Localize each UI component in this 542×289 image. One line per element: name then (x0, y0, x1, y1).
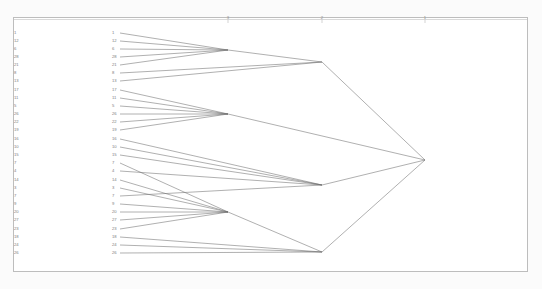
leaf-label: 17 (14, 88, 19, 92)
leaf-label: 9 (14, 202, 16, 206)
leaf-label: 9 (112, 202, 114, 206)
leaf-label: 27 (112, 218, 117, 222)
leaf-label: 7 (14, 161, 16, 165)
figure-canvas: 3 2 1 1 12 6 28 21 8 13 17 11 5 26 22 19… (0, 0, 542, 289)
leaf-label: 1 (112, 31, 114, 35)
leaf-label: 26 (14, 251, 19, 255)
leaf-label: 22 (112, 120, 117, 124)
leaf-label: 28 (14, 55, 19, 59)
leaf-label: 14 (112, 178, 117, 182)
leaf-label: 3 (112, 186, 114, 190)
leaf-label: 16 (14, 137, 19, 141)
leaf-label: 22 (14, 120, 19, 124)
leaf-label: 19 (112, 128, 117, 132)
leaf-label: 6 (112, 47, 114, 51)
leaf-label: 16 (112, 137, 117, 141)
leaf-label: 13 (14, 79, 19, 83)
leaf-label: 20 (112, 210, 117, 214)
leaf-label: 13 (112, 79, 117, 83)
leaf-label: 8 (14, 71, 16, 75)
leaf-label: 27 (14, 218, 19, 222)
leaf-label: 8 (112, 71, 114, 75)
leaf-label: 23 (112, 227, 117, 231)
leaf-label: 26 (14, 112, 19, 116)
leaf-label: 26 (112, 112, 117, 116)
leaf-label: 23 (14, 227, 19, 231)
plot-panel (13, 17, 528, 272)
axis-tick-3: 3 (227, 15, 229, 20)
leaf-label: 7 (14, 194, 16, 198)
axis-tick-1: 1 (424, 15, 426, 20)
leaf-label: 17 (112, 88, 117, 92)
leaf-label: 20 (14, 210, 19, 214)
leaf-label: 24 (14, 243, 19, 247)
leaf-label: 15 (112, 153, 117, 157)
leaf-label: 18 (112, 235, 117, 239)
leaf-label: 24 (112, 243, 117, 247)
leaf-label: 12 (14, 39, 19, 43)
leaf-label: 11 (112, 96, 116, 100)
leaf-label: 18 (14, 235, 19, 239)
leaf-label: 12 (112, 39, 117, 43)
leaf-label: 21 (112, 63, 117, 67)
leaf-label: 1 (14, 31, 16, 35)
leaf-label: 11 (14, 96, 18, 100)
leaf-label: 28 (112, 55, 117, 59)
leaf-label: 10 (14, 145, 19, 149)
leaf-label: 5 (14, 104, 16, 108)
leaf-label: 5 (112, 104, 114, 108)
leaf-label: 10 (112, 145, 117, 149)
leaf-label: 4 (112, 169, 114, 173)
leaf-label: 14 (14, 178, 19, 182)
leaf-label: 3 (14, 186, 16, 190)
leaf-label: 26 (112, 251, 117, 255)
leaf-label: 7 (112, 194, 114, 198)
leaf-label: 21 (14, 63, 19, 67)
leaf-label: 19 (14, 128, 19, 132)
leaf-label: 7 (112, 161, 114, 165)
axis-tick-2: 2 (321, 15, 323, 20)
leaf-label: 4 (14, 169, 16, 173)
leaf-label: 6 (14, 47, 16, 51)
leaf-label: 15 (14, 153, 19, 157)
